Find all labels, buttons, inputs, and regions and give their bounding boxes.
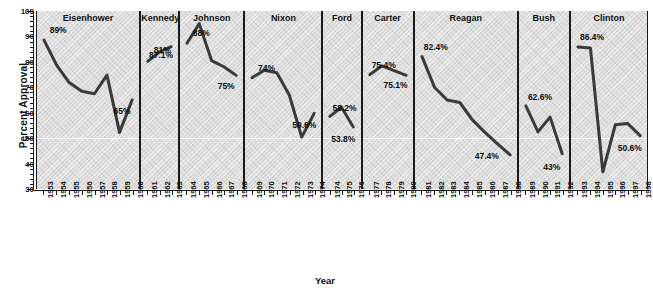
y-tick-mark (27, 87, 33, 88)
value-annotation: 75.4% (372, 60, 396, 70)
x-tick-label: 1960 (136, 181, 145, 198)
x-tick-label: 1981 (424, 181, 433, 198)
value-annotation: 47.4% (475, 151, 499, 161)
x-tick-label: 1967 (227, 181, 236, 198)
x-tick-label: 1975 (345, 181, 354, 198)
x-tick-label: 1984 (462, 181, 471, 198)
y-tick-mark (30, 118, 34, 119)
y-tick-mark (30, 174, 34, 175)
x-tick-label: 1990 (541, 181, 550, 198)
x-tick-label: 1958 (110, 181, 119, 198)
x-tick-label: 1970 (267, 181, 276, 198)
x-tick-label: 1955 (72, 181, 81, 198)
x-tick-label: 1991 (553, 181, 562, 198)
x-tick-label: 1957 (98, 181, 107, 198)
value-annotation: 59.6% (292, 120, 316, 130)
x-tick-label: 1976 (357, 181, 366, 198)
x-tick-label: 1965 (202, 181, 211, 198)
y-tick-mark (27, 138, 33, 139)
x-tick-label: 1994 (593, 181, 602, 198)
x-tick-label: 1995 (606, 181, 615, 198)
x-tick-label: 1988 (514, 181, 523, 198)
x-tick-label: 1982 (437, 181, 446, 198)
x-tick-label: 1978 (384, 181, 393, 198)
y-tick-mark (30, 158, 34, 159)
x-tick-label: 1992 (566, 181, 575, 198)
x-tick-label: 1977 (372, 181, 381, 198)
x-tick-label: 1997 (631, 181, 640, 198)
x-tick-label: 1964 (189, 181, 198, 198)
y-tick-mark (30, 143, 34, 144)
x-tick-label: 1968 (240, 181, 249, 198)
x-tick-label: 1974 (333, 181, 342, 198)
x-tick-label: 1980 (409, 181, 418, 198)
x-tick-label: 1966 (215, 181, 224, 198)
x-tick-label: 1993 (580, 181, 589, 198)
x-tick-label: 1962 (163, 181, 172, 198)
value-annotation: 58.2% (333, 103, 357, 113)
y-tick-mark (30, 179, 34, 180)
x-tick-label: 1998 (644, 181, 653, 198)
y-tick-mark (30, 72, 34, 73)
value-annotation: 62.6% (528, 92, 552, 102)
x-tick-label: 1986 (488, 181, 497, 198)
y-tick-mark (30, 103, 34, 104)
x-tick-label: 1983 (449, 181, 458, 198)
y-tick-mark (30, 123, 34, 124)
y-tick-mark (30, 128, 34, 129)
x-tick-label: 1954 (59, 181, 68, 198)
value-annotation: 53.8% (331, 134, 355, 144)
value-annotation: 75% (218, 81, 235, 91)
y-tick-mark (30, 77, 34, 78)
y-tick-mark (30, 153, 34, 154)
x-axis-title: Year (0, 275, 650, 286)
x-tick-label: 1985 (475, 181, 484, 198)
x-tick-label: 1996 (618, 181, 627, 198)
y-tick-mark (30, 82, 34, 83)
x-tick-label: 1973 (306, 181, 315, 198)
value-annotation: 43% (543, 162, 560, 172)
y-tick-mark (30, 67, 34, 68)
y-tick-mark (30, 97, 34, 98)
y-tick-mark (27, 62, 33, 63)
x-tick-label: 1956 (85, 181, 94, 198)
value-annotation: 75.1% (383, 80, 407, 90)
x-tick-label: 1971 (280, 181, 289, 198)
y-tick-mark (30, 184, 34, 185)
x-tick-label: 1969 (255, 181, 264, 198)
y-tick-mark (27, 164, 33, 165)
x-tick-label: 1963 (175, 181, 184, 198)
value-annotation: 50.6% (618, 143, 642, 153)
y-tick-mark (30, 148, 34, 149)
y-tick-mark (30, 92, 34, 93)
value-annotation: 65% (113, 106, 130, 116)
x-axis-tick-labels: 1953195419551956195719581959196019611962… (0, 0, 650, 60)
x-tick-label: 1987 (501, 181, 510, 198)
x-tick-label: 1959 (123, 181, 132, 198)
x-tick-label: 1961 (150, 181, 159, 198)
y-tick-mark (30, 169, 34, 170)
y-tick-mark (30, 108, 34, 109)
x-tick-label: 1974 (318, 181, 327, 198)
value-annotation: 74% (258, 63, 275, 73)
y-tick-mark (30, 133, 34, 134)
x-tick-label: 1972 (293, 181, 302, 198)
x-tick-label: 1979 (397, 181, 406, 198)
x-tick-label: 1989 (528, 181, 537, 198)
x-tick-label: 1953 (46, 181, 55, 198)
y-tick-mark (27, 113, 33, 114)
